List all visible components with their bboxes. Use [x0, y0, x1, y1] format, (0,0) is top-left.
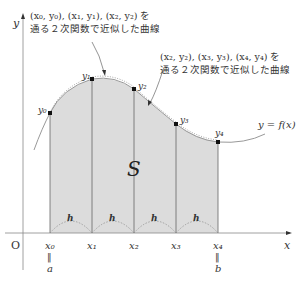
h-label-2: h: [109, 214, 116, 223]
b-label: b: [215, 264, 221, 274]
h-label-3: h: [151, 214, 158, 223]
area-label: S: [127, 159, 141, 179]
leader-left-arrow-icon: [102, 70, 106, 76]
leader-left: [92, 42, 104, 72]
x-tick-x1: x₁: [87, 241, 97, 251]
equals-mark-a: ‖: [47, 253, 52, 262]
x-axis-label: x: [284, 240, 290, 251]
annotation-right-line2: 通る２次関数で近似した曲線: [160, 63, 290, 76]
x-tick-x2: x₂: [129, 241, 139, 251]
y-axis-label: y: [13, 18, 19, 29]
h-label-4: h: [193, 214, 200, 223]
x-tick-x3: x₃: [171, 241, 181, 251]
point-label-y2: y₂: [138, 82, 147, 91]
annotation-right-line1: (x₂, y₂), (x₃, y₃), (x₄, y₄) を: [160, 50, 290, 63]
x-axis-arrow-icon: [286, 231, 292, 235]
equals-mark-b: ‖: [215, 253, 220, 262]
x-tick-x0: x₀: [45, 241, 55, 251]
origin-label: O: [11, 240, 20, 251]
point-label-y4: y₄: [215, 129, 224, 138]
annotation-right: (x₂, y₂), (x₃, y₃), (x₄, y₄) を 通る２次関数で近似…: [160, 50, 290, 76]
point-label-y1: y₁: [82, 72, 91, 81]
point-label-y3: y₃: [180, 116, 189, 125]
h-label-1: h: [67, 214, 74, 223]
annotation-left-line1: (x₀, y₀), (x₁, y₁), (x₂, y₂) を: [30, 9, 160, 22]
y-axis-arrow-icon: [21, 13, 25, 19]
annotation-left-line2: 通る２次関数で近似した曲線: [30, 22, 160, 35]
x-tick-x4: x₄: [213, 241, 223, 251]
point-label-y0: y₀: [38, 106, 47, 115]
annotation-left: (x₀, y₀), (x₁, y₁), (x₂, y₂) を 通る２次関数で近似…: [30, 9, 160, 35]
curve-label: y = f(x): [258, 120, 296, 130]
a-label: a: [47, 264, 53, 274]
